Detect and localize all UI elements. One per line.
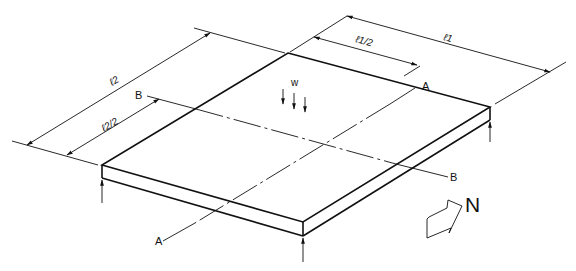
dimension-l2-half-label: ℓ2/2: [99, 115, 121, 134]
section-b-left-label: B: [135, 89, 142, 101]
dimension-l1-half-label: ℓ1/2: [354, 33, 375, 48]
plate-diagram: A A B B ℓ1 ℓ1/2 ℓ2 ℓ2/2 w: [0, 0, 576, 271]
block-arrow-icon: [427, 200, 462, 238]
dimension-l2-label: ℓ2: [107, 74, 121, 89]
north-label: N: [465, 193, 480, 216]
section-a-bottom-label: A: [155, 235, 163, 247]
section-b-right-label: B: [450, 171, 457, 183]
section-a-top-label: A: [422, 80, 430, 92]
load-label: w: [290, 77, 299, 88]
north-indicator: N: [427, 193, 480, 238]
